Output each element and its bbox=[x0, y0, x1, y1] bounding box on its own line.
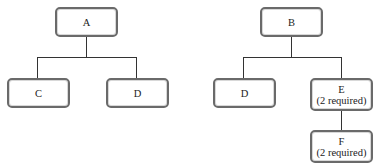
connector-to-e bbox=[341, 57, 342, 78]
connector-b-down bbox=[291, 37, 292, 57]
connector-a-down bbox=[86, 37, 87, 57]
node-f-label: F bbox=[339, 136, 345, 147]
node-f-note: (2 required) bbox=[317, 147, 367, 158]
node-e-label: E bbox=[338, 84, 344, 95]
node-a-label: A bbox=[83, 17, 91, 28]
node-a: A bbox=[55, 7, 118, 37]
connector-b-horizontal bbox=[243, 57, 342, 58]
connector-to-d2 bbox=[243, 57, 244, 78]
node-e-note: (2 required) bbox=[317, 95, 367, 106]
node-d-right: D bbox=[213, 78, 276, 108]
connector-e-to-f bbox=[341, 111, 342, 130]
node-d-left-label: D bbox=[134, 88, 142, 99]
node-b: B bbox=[260, 7, 323, 37]
node-c-label: C bbox=[35, 88, 42, 99]
node-e: E (2 required) bbox=[310, 78, 373, 111]
node-d-right-label: D bbox=[241, 88, 249, 99]
node-b-label: B bbox=[288, 17, 295, 28]
node-c: C bbox=[7, 78, 70, 108]
node-d-left: D bbox=[106, 78, 169, 108]
node-f: F (2 required) bbox=[310, 130, 373, 163]
connector-to-c bbox=[37, 57, 38, 78]
connector-to-d1 bbox=[136, 57, 137, 78]
connector-a-horizontal bbox=[37, 57, 137, 58]
